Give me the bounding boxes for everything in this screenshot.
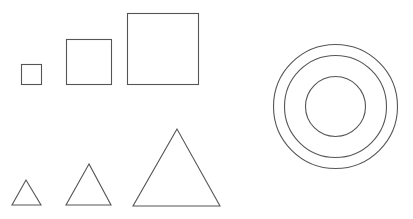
small-triangle (12, 180, 41, 205)
medium-square (67, 40, 112, 85)
small-square (22, 65, 42, 85)
inner-circle (306, 77, 366, 137)
shapes-canvas (0, 0, 413, 219)
large-square (128, 14, 199, 85)
concentric-circles-group (274, 45, 398, 169)
triangles-group (12, 129, 220, 206)
medium-triangle (66, 164, 111, 205)
squares-group (22, 14, 199, 85)
outer-circle (274, 45, 398, 169)
middle-circle (285, 56, 387, 158)
large-triangle (133, 129, 220, 206)
